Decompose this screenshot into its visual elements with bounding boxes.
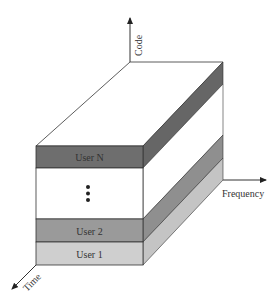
frequency-axis-label: Frequency: [222, 188, 264, 199]
layer-label-user-n: User N: [75, 152, 104, 163]
layer-user-n: User N: [36, 146, 143, 168]
layer-ellipsis: [36, 168, 143, 219]
ellipsis-dot: [86, 198, 90, 202]
layer-user-1: User 1: [36, 242, 143, 265]
time-axis-label: Time: [21, 271, 44, 294]
code-axis-label: Code: [133, 34, 144, 56]
cdma-block-diagram: User N User 2 User 1 Code Frequency Time: [0, 0, 278, 304]
layer-label-user-2: User 2: [76, 226, 102, 237]
ellipsis-dot: [86, 192, 90, 196]
layer-label-user-1: User 1: [76, 249, 102, 260]
layer-user-2: User 2: [36, 219, 143, 242]
ellipsis-dot: [86, 185, 90, 189]
